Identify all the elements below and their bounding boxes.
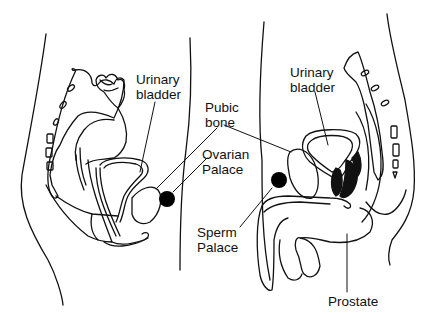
label-line: Pubic — [205, 100, 239, 115]
male-pelvis — [224, 14, 414, 292]
label-line: Sperm — [197, 225, 238, 240]
label-sperm-palace: Sperm Palace — [197, 225, 238, 255]
male-scrotum — [295, 208, 372, 277]
label-line: bone — [205, 115, 239, 130]
label-line: Prostate — [328, 294, 378, 309]
male-prostate-glands — [332, 168, 343, 196]
label-ovarian-palace: Ovarian Palace — [202, 147, 249, 177]
female-pubic-bone — [132, 187, 161, 223]
label-female-urinary-bladder: Urinary bladder — [136, 72, 181, 102]
label-line: Urinary — [290, 65, 335, 80]
male-pubic-bone — [288, 149, 319, 198]
sperm-palace-dot — [271, 172, 287, 188]
label-prostate: Prostate — [328, 294, 378, 309]
label-line: Urinary — [136, 72, 181, 87]
ovarian-palace-dot — [159, 191, 175, 207]
male-back-outline — [387, 14, 414, 265]
male-front-outline — [260, 22, 270, 280]
label-male-urinary-bladder: Urinary bladder — [290, 65, 335, 95]
label-line: bladder — [290, 80, 335, 95]
female-uterus — [75, 108, 126, 164]
label-line: Palace — [197, 240, 238, 255]
label-line: Ovarian — [202, 147, 249, 162]
female-back-outline — [21, 34, 63, 305]
female-sacrum — [48, 69, 124, 198]
female-pelvis — [21, 34, 217, 305]
label-line: bladder — [136, 87, 181, 102]
label-pubic-bone: Pubic bone — [205, 100, 239, 130]
label-line: Palace — [202, 162, 249, 177]
female-front-outline — [180, 38, 191, 270]
